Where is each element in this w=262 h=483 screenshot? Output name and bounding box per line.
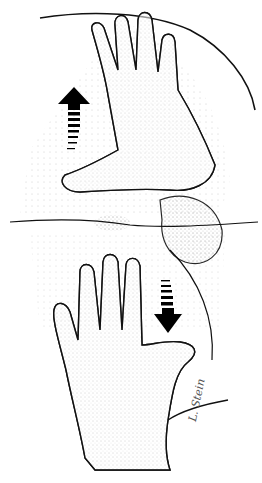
medical-illustration bbox=[0, 0, 262, 483]
